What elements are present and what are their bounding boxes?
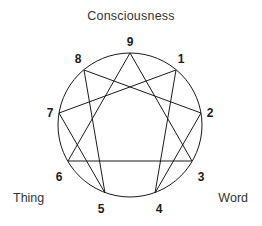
diagram-label-word: Word xyxy=(218,192,248,205)
enneagram-outer-circle xyxy=(58,53,202,197)
enneagram-point-8: 8 xyxy=(75,53,82,65)
enneagram-point-1: 1 xyxy=(178,53,185,65)
diagram-label-thing: Thing xyxy=(13,192,44,205)
enneagram-point-9: 9 xyxy=(127,36,134,48)
enneagram-figure: Consciousness 912345678 Thing Word xyxy=(0,0,262,226)
enneagram-point-6: 6 xyxy=(56,171,63,183)
enneagram-triangle-963 xyxy=(68,53,192,161)
enneagram-point-3: 3 xyxy=(198,171,205,183)
enneagram-point-7: 7 xyxy=(47,107,54,119)
enneagram-point-4: 4 xyxy=(156,203,163,215)
enneagram-hexad-142857 xyxy=(59,70,201,193)
enneagram-point-2: 2 xyxy=(207,107,214,119)
enneagram-point-5: 5 xyxy=(98,203,105,215)
